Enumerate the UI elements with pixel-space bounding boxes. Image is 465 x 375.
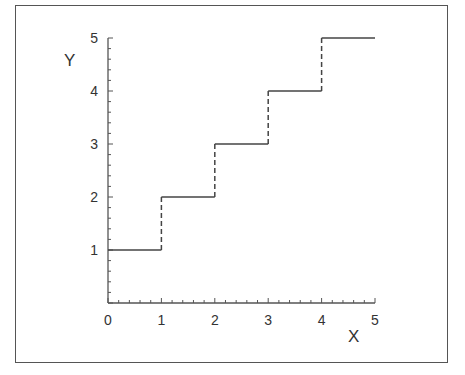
x-tick-label: 0 xyxy=(104,312,112,328)
x-tick-label: 4 xyxy=(318,312,326,328)
y-tick-label: 4 xyxy=(90,83,98,99)
x-tick-label: 5 xyxy=(371,312,379,328)
x-tick-label: 3 xyxy=(264,312,272,328)
y-tick-label: 5 xyxy=(90,30,98,46)
x-axis-label: X xyxy=(348,327,359,346)
axes: 01234512345 xyxy=(90,30,379,328)
step-series xyxy=(108,38,375,250)
step-chart: 01234512345 Y X xyxy=(0,0,465,375)
y-axis-label: Y xyxy=(64,51,75,70)
x-tick-label: 1 xyxy=(158,312,166,328)
y-tick-label: 3 xyxy=(90,136,98,152)
x-tick-label: 2 xyxy=(211,312,219,328)
y-tick-label: 1 xyxy=(90,242,98,258)
y-tick-label: 2 xyxy=(90,189,98,205)
